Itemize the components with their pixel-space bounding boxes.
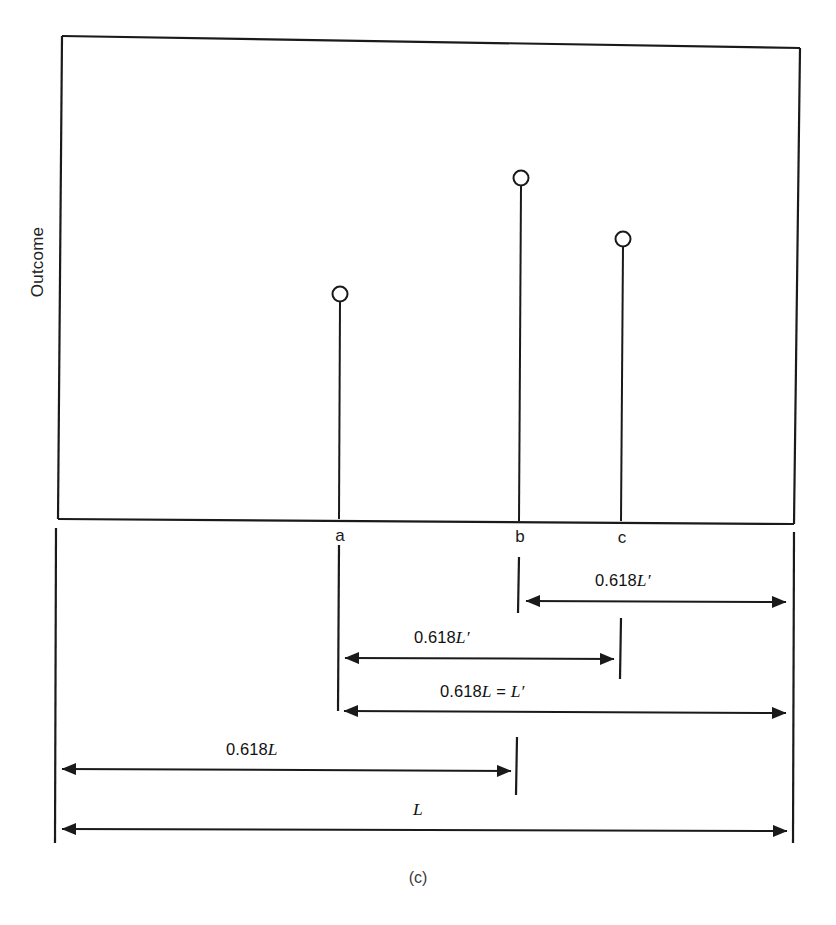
dimension-arrow-0618Lprime-upper bbox=[526, 601, 786, 602]
dimension-arrow-0618L bbox=[62, 769, 511, 771]
x-tick-label-a: a bbox=[326, 526, 354, 546]
dim3-prefix: 0.618 bbox=[440, 682, 482, 700]
stem-a bbox=[333, 287, 348, 520]
dim4-symbol: L bbox=[268, 739, 278, 759]
dimension-label-0618L-equals-Lprime: 0.618L = L′ bbox=[440, 681, 525, 702]
dim4-prefix: 0.618 bbox=[226, 740, 268, 758]
y-axis-label: Outcome bbox=[28, 202, 48, 322]
plot-frame bbox=[58, 36, 800, 524]
figure-caption: (c) bbox=[0, 869, 836, 887]
figure-svg-canvas bbox=[0, 0, 836, 925]
dim1-symbol: L bbox=[637, 570, 647, 590]
dim2-prefix: 0.618 bbox=[414, 628, 456, 646]
dimension-label-L: L bbox=[413, 799, 423, 820]
dim3-symbol: L bbox=[482, 681, 492, 701]
stem-c bbox=[616, 232, 631, 522]
dimension-arrow-0618Lprime-middle bbox=[345, 658, 614, 659]
dimension-label-0618Lprime-middle: 0.618L′ bbox=[414, 627, 470, 648]
dim2-prime: ′ bbox=[466, 627, 470, 647]
x-tick-label-b: b bbox=[506, 527, 534, 547]
dim1-prefix: 0.618 bbox=[595, 571, 637, 589]
dim3-equals: = bbox=[492, 682, 511, 700]
reference-rules bbox=[55, 528, 794, 843]
stem-b bbox=[514, 171, 529, 522]
figure-c-root: · bbox=[0, 0, 836, 925]
dim3-symbol2: L bbox=[511, 681, 521, 701]
dimension-arrow-0618L-equals-Lprime bbox=[344, 711, 786, 713]
x-tick-label-c: c bbox=[608, 528, 636, 548]
dimension-arrow-L bbox=[62, 829, 787, 831]
dim5-symbol: L bbox=[413, 799, 423, 819]
dim1-prime: ′ bbox=[647, 570, 651, 590]
dimension-label-0618Lprime-upper: 0.618L′ bbox=[595, 570, 651, 591]
dimension-label-0618L: 0.618L bbox=[226, 739, 278, 760]
dim2-symbol: L bbox=[456, 627, 466, 647]
dim3-prime: ′ bbox=[521, 681, 525, 701]
